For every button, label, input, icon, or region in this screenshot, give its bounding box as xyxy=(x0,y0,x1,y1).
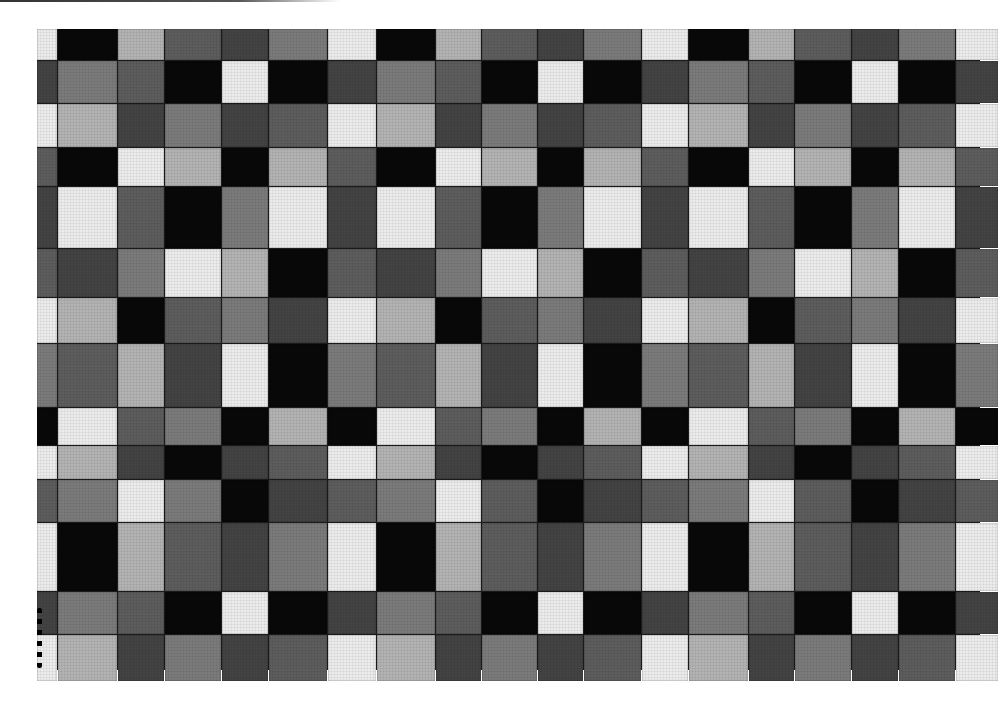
painted-square xyxy=(58,298,117,343)
painted-square xyxy=(956,187,998,248)
painted-square xyxy=(482,480,537,522)
painted-square xyxy=(482,523,537,591)
painted-square xyxy=(852,104,898,147)
painted-square xyxy=(749,104,794,147)
painted-square xyxy=(377,446,435,479)
painted-square xyxy=(584,249,641,297)
painted-square xyxy=(852,298,898,343)
painted-square xyxy=(118,446,164,479)
painted-square xyxy=(436,344,481,407)
painted-square xyxy=(222,344,268,407)
painted-square xyxy=(795,523,851,591)
painted-square xyxy=(538,148,583,186)
painted-square xyxy=(795,344,851,407)
painted-square xyxy=(899,408,955,445)
painted-square xyxy=(795,446,851,479)
painted-square xyxy=(269,104,327,147)
painted-square xyxy=(749,408,794,445)
painted-square xyxy=(436,298,481,343)
painted-square xyxy=(328,635,376,681)
painted-square xyxy=(956,635,998,681)
painted-square xyxy=(222,523,268,591)
checkered-painting xyxy=(37,29,980,670)
painted-square xyxy=(37,523,57,591)
painted-square xyxy=(269,635,327,681)
painted-square xyxy=(956,523,998,591)
painted-square xyxy=(269,187,327,248)
painted-square xyxy=(328,61,376,103)
painted-square xyxy=(482,249,537,297)
painted-square xyxy=(377,187,435,248)
painted-square xyxy=(165,592,221,634)
painted-square xyxy=(538,249,583,297)
painted-square xyxy=(538,408,583,445)
painted-square xyxy=(328,249,376,297)
painted-square xyxy=(852,344,898,407)
painted-square xyxy=(584,408,641,445)
painted-square xyxy=(852,408,898,445)
painted-square xyxy=(584,29,641,60)
painted-square xyxy=(165,104,221,147)
painted-square xyxy=(795,148,851,186)
painted-square xyxy=(689,61,748,103)
painted-square xyxy=(749,344,794,407)
painted-square xyxy=(852,592,898,634)
painted-square xyxy=(852,446,898,479)
painted-square xyxy=(222,480,268,522)
painted-square xyxy=(269,298,327,343)
painted-square xyxy=(482,408,537,445)
painted-square xyxy=(956,344,998,407)
painted-square xyxy=(58,344,117,407)
painted-square xyxy=(899,29,955,60)
painted-square xyxy=(956,408,998,445)
painted-square xyxy=(482,446,537,479)
painted-square xyxy=(118,187,164,248)
painted-square xyxy=(269,523,327,591)
painted-square xyxy=(269,408,327,445)
painted-square xyxy=(689,298,748,343)
painted-square xyxy=(795,480,851,522)
painted-square xyxy=(222,298,268,343)
painted-square xyxy=(482,61,537,103)
painted-square xyxy=(899,148,955,186)
painted-square xyxy=(584,635,641,681)
painted-square xyxy=(538,635,583,681)
painted-square xyxy=(584,298,641,343)
perforated-edge-marks xyxy=(37,608,42,668)
painted-square xyxy=(795,61,851,103)
painted-square xyxy=(37,148,57,186)
painted-square xyxy=(58,187,117,248)
painted-square xyxy=(377,635,435,681)
painted-square xyxy=(377,104,435,147)
painted-square xyxy=(642,635,688,681)
painted-square xyxy=(899,61,955,103)
painted-square xyxy=(749,298,794,343)
painted-square xyxy=(749,249,794,297)
painted-square xyxy=(37,480,57,522)
painted-square xyxy=(899,249,955,297)
painted-square xyxy=(222,148,268,186)
painted-square xyxy=(222,446,268,479)
painted-square xyxy=(58,480,117,522)
painted-square xyxy=(328,344,376,407)
painted-square xyxy=(642,480,688,522)
painted-square xyxy=(222,249,268,297)
painted-square xyxy=(222,187,268,248)
painted-square xyxy=(749,592,794,634)
painted-square xyxy=(795,298,851,343)
painted-square xyxy=(269,344,327,407)
painted-square xyxy=(269,480,327,522)
painted-square xyxy=(222,408,268,445)
painted-square xyxy=(956,592,998,634)
painted-square xyxy=(436,635,481,681)
painted-square xyxy=(538,592,583,634)
painted-square xyxy=(165,635,221,681)
painted-square xyxy=(269,148,327,186)
painted-square xyxy=(689,344,748,407)
painted-square xyxy=(689,408,748,445)
painted-square xyxy=(899,298,955,343)
painted-square xyxy=(37,446,57,479)
painted-square xyxy=(956,29,998,60)
painted-square xyxy=(118,298,164,343)
painted-square xyxy=(436,61,481,103)
